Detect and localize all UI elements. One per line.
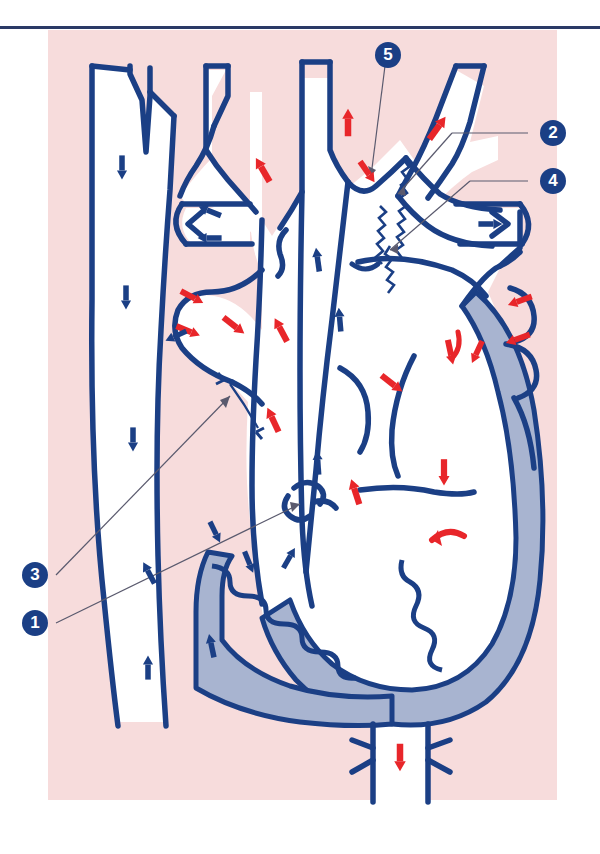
heart-flow-diagram: 5 2 4 3 1 [0, 0, 600, 854]
callout-badge-4-label: 4 [540, 168, 566, 194]
callout-badge-4[interactable]: 4 [540, 168, 566, 194]
callout-badge-5-label: 5 [375, 42, 401, 68]
callout-badge-5[interactable]: 5 [375, 42, 401, 68]
leader-3-head [220, 396, 230, 408]
red-arrow-pa-trunk [342, 109, 354, 137]
callout-badge-2-label: 2 [540, 120, 566, 146]
aorta-branch-right [428, 740, 450, 772]
callout-badge-3[interactable]: 3 [22, 562, 48, 588]
pa-trunk-left [280, 62, 302, 228]
aorta-branch-left [352, 740, 373, 772]
callout-badge-1-label: 1 [22, 610, 48, 636]
pulmonary-branch-right-lumen [408, 70, 498, 206]
callout-badge-3-label: 3 [22, 562, 48, 588]
heart-anatomy-artwork [0, 0, 600, 854]
blue-arrow-ra-down-1 [206, 520, 225, 545]
callout-badge-1[interactable]: 1 [22, 610, 48, 636]
heart-main-lumen [175, 78, 538, 725]
callout-badge-2[interactable]: 2 [540, 120, 566, 146]
